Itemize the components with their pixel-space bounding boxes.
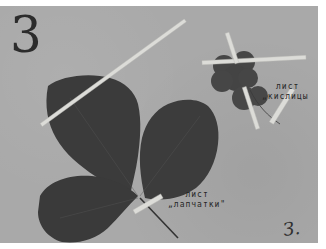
oxalis-label: лист „кислицы [262,82,309,102]
leaflet-lower [38,176,138,243]
specimens-artwork [0,6,318,243]
herbarium-sheet: 3 [0,6,318,243]
oxalis-label-line2: „кислицы [262,92,309,102]
potentilla-label-line1: лист [168,190,226,200]
potentilla-leaf [38,75,219,242]
potentilla-label-line2: „лапчатки" [168,200,226,210]
oxalis-label-line1: лист [262,82,309,92]
leaflet-upper-right [140,100,219,200]
signature: З. [282,217,302,240]
potentilla-label: лист „лапчатки" [168,190,226,210]
